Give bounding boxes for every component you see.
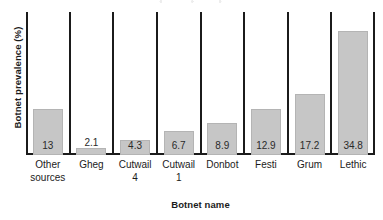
tick-label-line: Festi: [244, 159, 288, 172]
bar-value-label: 13: [34, 140, 62, 151]
x-axis-tick-label: Festi: [244, 159, 288, 184]
tick-label-line: Gheg: [70, 159, 114, 172]
x-axis-tick-label: Othersources: [26, 159, 70, 184]
x-axis-title: Botnet name: [26, 199, 375, 210]
bar: 34.8: [338, 31, 368, 155]
tick-label-line: Cutwail: [113, 159, 157, 172]
x-axis-tick-label: Lethic: [331, 159, 375, 184]
tick-label-line: Cutwail: [157, 159, 201, 172]
bar-value-label: 34.8: [339, 140, 367, 151]
x-axis-tick-label: Donbot: [201, 159, 245, 184]
bar-chart: Botnet prevalence (%) 132.14.36.78.912.9…: [0, 0, 383, 220]
bar-cell: 8.9: [201, 12, 245, 155]
bar-value-label: 12.9: [252, 140, 280, 151]
bar: 2.1: [76, 148, 106, 156]
x-axis-tick-label: Grum: [288, 159, 332, 184]
tick-label-line: sources: [26, 172, 70, 185]
y-axis-title: Botnet prevalence (%): [12, 3, 23, 153]
cropped-title-remnant: [150, 0, 240, 3]
bar-cell: 4.3: [113, 12, 157, 155]
tick-label-line: 4: [113, 172, 157, 185]
bar-value-label: 6.7: [165, 140, 193, 151]
bar: 13: [33, 109, 63, 155]
x-axis-tick-label: Cutwail1: [157, 159, 201, 184]
bar-value-label: 8.9: [208, 140, 236, 151]
bar: 8.9: [207, 123, 237, 155]
x-axis-tick-label: Cutwail4: [113, 159, 157, 184]
bar-series: 132.14.36.78.912.917.234.8: [26, 12, 375, 155]
bar-cell: 13: [26, 12, 70, 155]
bar-cell: 34.8: [331, 12, 375, 155]
tick-label-line: Grum: [288, 159, 332, 172]
tick-label-line: 1: [157, 172, 201, 185]
tick-label-line: Other: [26, 159, 70, 172]
bar-cell: 17.2: [288, 12, 332, 155]
x-axis-tick-labels: OthersourcesGhegCutwail4Cutwail1DonbotFe…: [26, 159, 375, 184]
bar-cell: 12.9: [244, 12, 288, 155]
tick-label-line: Donbot: [201, 159, 245, 172]
bar: 12.9: [251, 109, 281, 155]
tick-label-line: Lethic: [331, 159, 375, 172]
bar-value-label: 4.3: [121, 140, 149, 151]
bar: 4.3: [120, 140, 150, 155]
x-axis-tick-label: Gheg: [70, 159, 114, 184]
bar-value-label: 17.2: [296, 140, 324, 151]
bar: 17.2: [295, 94, 325, 155]
bar-value-label: 2.1: [70, 137, 112, 148]
bar-cell: 2.1: [70, 12, 114, 155]
bar-cell: 6.7: [157, 12, 201, 155]
plot-area: 132.14.36.78.912.917.234.8: [26, 12, 375, 155]
bar: 6.7: [164, 131, 194, 155]
